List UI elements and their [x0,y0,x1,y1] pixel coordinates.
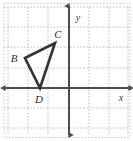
x-axis-label: x [118,92,124,103]
vertex-label-b: B [11,52,18,64]
coordinate-plane-svg: B C D y x [0,0,133,141]
figure-background [0,0,133,141]
coordinate-plane-figure: B C D y x [0,0,133,141]
vertex-label-d: D [34,93,43,105]
y-axis-label: y [75,12,81,23]
vertex-label-c: C [54,28,62,40]
